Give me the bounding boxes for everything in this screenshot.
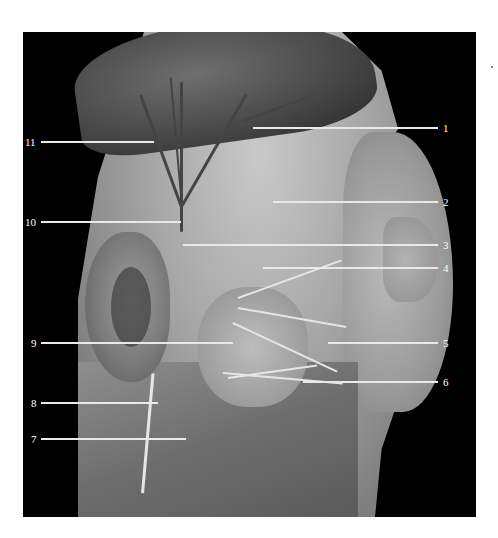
- parotid-region: [198, 287, 308, 407]
- label-6: 6: [443, 376, 449, 388]
- label-7: 7: [31, 433, 37, 445]
- ear-concha: [111, 267, 151, 347]
- leader-line-6: [303, 381, 438, 383]
- leader-line-1: [253, 127, 438, 129]
- leader-line-11: [41, 141, 154, 143]
- leader-line-2: [273, 201, 438, 203]
- leader-line-10: [41, 221, 181, 223]
- leader-line-7: [41, 438, 186, 440]
- page-mark: [491, 66, 493, 68]
- label-9: 9: [31, 337, 37, 349]
- label-5: 5: [443, 337, 449, 349]
- label-8: 8: [31, 397, 37, 409]
- dissection-figure: 1 2 3 4 5 6 11 10 9 8 7: [23, 32, 476, 517]
- label-11: 11: [25, 136, 36, 148]
- leader-line-9: [41, 342, 233, 344]
- dissection-photo: [23, 32, 476, 517]
- temporal-vessel: [180, 82, 183, 232]
- label-3: 3: [443, 239, 449, 251]
- label-1: 1: [443, 122, 449, 134]
- label-10: 10: [25, 216, 36, 228]
- label-4: 4: [443, 262, 449, 274]
- leader-line-8: [41, 402, 158, 404]
- leader-line-5: [328, 342, 438, 344]
- label-2: 2: [443, 196, 449, 208]
- leader-line-4: [263, 267, 438, 269]
- leader-line-3: [183, 244, 438, 246]
